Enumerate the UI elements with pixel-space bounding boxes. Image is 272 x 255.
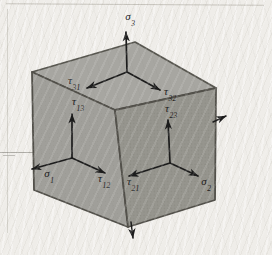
sigma1-subscript: 1 — [50, 176, 54, 185]
tau32-symbol: τ — [164, 85, 168, 97]
sigma1-label: σ1 — [44, 168, 54, 182]
tau13-symbol: τ — [72, 95, 76, 107]
tau23-label: τ23 — [165, 103, 177, 117]
tau31-symbol: τ — [68, 74, 72, 86]
tau21-subscript: 21 — [132, 184, 140, 193]
tau13-label: τ13 — [72, 96, 84, 110]
tau13-subscript: 13 — [77, 104, 85, 113]
tau21-symbol: τ — [127, 175, 131, 187]
tau23-symbol: τ — [165, 102, 169, 114]
tau21-label: τ21 — [127, 176, 139, 190]
sigma1-symbol: σ — [44, 167, 50, 179]
sigma3-subscript: 3 — [131, 19, 135, 28]
stress-cube-diagram — [0, 0, 272, 255]
sigma2-subscript: 2 — [207, 184, 211, 193]
sigma3-symbol: σ — [125, 10, 131, 22]
tau12-subscript: 12 — [103, 181, 111, 190]
tau12-label: τ12 — [98, 173, 110, 187]
tau23-subscript: 23 — [170, 111, 178, 120]
sigma2-symbol: σ — [201, 175, 207, 187]
tau32-subscript: 32 — [169, 94, 177, 103]
sigma3-label: σ3 — [125, 11, 135, 25]
tau12-symbol: τ — [98, 172, 102, 184]
scanned-stress-figure: σ3 τ31 τ32 τ13 σ1 τ12 τ23 τ21 σ2 — [0, 0, 272, 255]
sigma2-label: σ2 — [201, 176, 211, 190]
tau31-label: τ31 — [68, 75, 80, 89]
sigma3-arrow — [126, 32, 127, 72]
tau32-label: τ32 — [164, 86, 176, 100]
tau31-subscript: 31 — [73, 83, 81, 92]
